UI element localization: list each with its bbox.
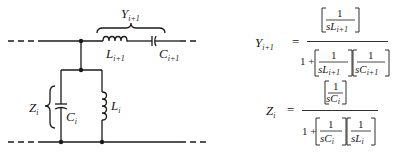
eq-y-lhs: Yi+1 [255, 35, 274, 52]
ladder-filter-diagram: Yi+1 Li+1 Ci+1 Zi Ci Li Yi+1 = 1 sLi+1 1… [0, 0, 394, 155]
eq-y-den-one: 1 + [300, 55, 314, 67]
eq-y-den-t2: sCi+1 [355, 63, 378, 77]
equation-z: Zi = 1 sCi 1 + 1 sCi 1 sLi [266, 80, 378, 146]
eq-z-den-one: 1 + [302, 125, 316, 137]
eq-z-equals: = [287, 102, 294, 117]
equation-y: Yi+1 = 1 sLi+1 1 + 1 sLi+1 1 sCi+1 [255, 7, 389, 77]
eq-z-den-t2-one: 1 [358, 118, 364, 130]
eq-z-lhs: Zi [266, 103, 275, 120]
junction-dot [79, 39, 83, 43]
eq-y-den-t1: sLi+1 [318, 63, 340, 77]
shunt-capacitor-label: Ci [66, 109, 77, 126]
eq-y-num-one: 1 [337, 7, 343, 19]
eq-z-num-one: 1 [333, 80, 339, 92]
eq-z-den-t2: sLi [351, 132, 364, 146]
series-capacitor-label: Ci+1 [159, 46, 179, 63]
eq-z-num-den: sCi [326, 92, 340, 106]
eq-y-num-den: sLi+1 [326, 20, 348, 34]
shunt-branch-label: Zi [29, 100, 38, 117]
junction-dot [100, 140, 104, 144]
series-branch-label: Yi+1 [121, 6, 140, 23]
series-inductor-label: Li+1 [105, 46, 125, 63]
eq-y-den-t2-one: 1 [368, 49, 374, 61]
eq-y-equals: = [292, 34, 299, 49]
eq-z-den-t1-one: 1 [328, 118, 334, 130]
eq-y-den-t1-one: 1 [331, 49, 337, 61]
shunt-inductor-label: Li [110, 98, 120, 115]
series-brace-icon [97, 23, 165, 33]
eq-z-den-t1: sCi [320, 132, 334, 146]
series-inductor-icon [103, 37, 128, 42]
shunt-brace-icon [45, 86, 55, 128]
junction-dot [59, 140, 63, 144]
junction-dot [79, 68, 83, 72]
shunt-inductor-icon [102, 92, 107, 120]
